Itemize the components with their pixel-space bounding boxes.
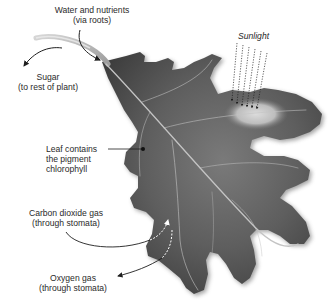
water-label: Water and nutrients (via roots)	[44, 5, 140, 25]
chlorophyll-dot	[141, 147, 145, 151]
leaf-body	[102, 52, 322, 294]
sunlit-area	[224, 98, 288, 130]
chlorophyll-label: Leaf contains the pigment chlorophyll	[46, 144, 97, 174]
co2-arrow	[66, 232, 150, 247]
o2-arrow	[118, 258, 162, 276]
water-label-line1: Water and nutrients	[44, 5, 140, 15]
chlorophyll-label-line3: chlorophyll	[46, 164, 97, 174]
o2-label-line2: (through stomata)	[28, 283, 118, 293]
sugar-arrow	[24, 48, 62, 66]
sunlight-label: Sunlight	[238, 31, 269, 41]
photosynthesis-diagram: Water and nutrients (via roots) Sugar (t…	[0, 0, 336, 302]
sugar-label: Sugar (to rest of plant)	[12, 72, 84, 92]
sugar-label-line2: (to rest of plant)	[12, 82, 84, 92]
co2-label-line2: (through stomata)	[18, 218, 114, 228]
o2-label-line1: Oxygen gas	[28, 273, 118, 283]
chlorophyll-label-line2: the pigment	[46, 154, 97, 164]
water-label-line2: (via roots)	[44, 15, 140, 25]
o2-label: Oxygen gas (through stomata)	[28, 273, 118, 293]
sugar-label-line1: Sugar	[12, 72, 84, 82]
co2-label: Carbon dioxide gas (through stomata)	[18, 208, 114, 228]
sunlight-label-text: Sunlight	[238, 31, 269, 41]
co2-label-line1: Carbon dioxide gas	[18, 208, 114, 218]
chlorophyll-label-line1: Leaf contains	[46, 144, 97, 154]
